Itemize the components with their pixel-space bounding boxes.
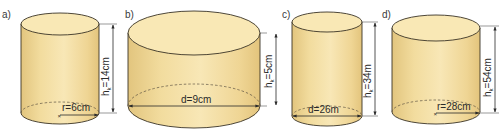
cylinder-c: c) d=26m hk=34m [282, 9, 378, 126]
cylinder-b: b) d=9cm hk=5cm [125, 9, 276, 128]
radius-label: r=6cm [62, 102, 90, 113]
cylinder-a: a) × r=6cm hk=14cm [2, 9, 117, 124]
height-label: hk=14cm [100, 57, 112, 96]
cylinder-top-face [128, 11, 260, 55]
radius-label: r=28cm [437, 101, 471, 112]
label-a: a) [2, 9, 11, 20]
svg-text:×: × [58, 113, 62, 119]
cylinder-top-face [21, 13, 99, 35]
diameter-label: d=9cm [181, 94, 211, 105]
cylinders-diagram: a) × r=6cm hk=14cm b) d=9cm hk=5cm c) [0, 0, 504, 138]
cylinder-d: d) × r=28cm hk=54cm [382, 9, 499, 124]
label-c: c) [282, 9, 290, 20]
diameter-label: d=26m [308, 104, 339, 115]
height-label: hk=5cm [263, 55, 275, 88]
height-label: hk=34m [362, 64, 374, 98]
cylinder-top-face [292, 12, 362, 32]
label-d: d) [382, 9, 391, 20]
height-label: hk=54cm [482, 58, 494, 97]
label-b: b) [125, 9, 134, 20]
cylinder-top-face [392, 15, 480, 41]
